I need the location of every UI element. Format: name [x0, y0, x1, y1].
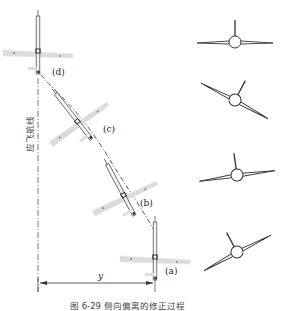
front-view-c-icon: [199, 63, 279, 123]
offset-label-y: y: [97, 271, 104, 281]
track-label: 应飞航线: [25, 116, 35, 152]
position-label-a: (a): [165, 266, 177, 276]
figure-caption: 图 6-29 侧向偏离的修正过程: [70, 301, 185, 311]
airplane-d-icon: [3, 10, 73, 74]
position-label-d: (d): [52, 67, 65, 77]
front-view-b-icon: [196, 148, 275, 186]
position-label-b: (b): [140, 198, 153, 208]
airplane-b-icon: [73, 142, 165, 231]
lateral-deviation-correction-diagram: (d) (c) (b) (a) y 应飞航线 图 6-29 侧向偏离的修正过程: [0, 0, 285, 311]
airplane-a-icon: [120, 216, 190, 280]
airplane-c-icon: [25, 67, 120, 161]
position-label-c: (c): [103, 124, 115, 134]
front-view-d-icon: [197, 20, 273, 48]
front-view-a-icon: [193, 215, 273, 275]
